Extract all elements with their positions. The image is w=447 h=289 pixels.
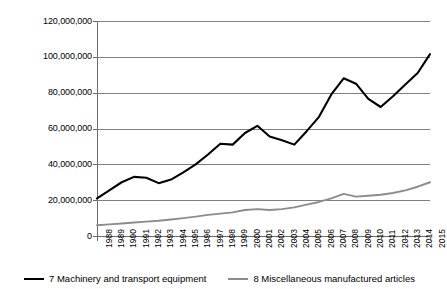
x-axis-tick-mark [183, 237, 184, 241]
x-axis-tick-mark [430, 237, 431, 241]
x-axis-tick-mark [356, 237, 357, 241]
x-axis-tick-mark [134, 237, 135, 241]
x-axis-tick-mark [171, 237, 172, 241]
y-axis-tick-label: 120,000,000 [4, 17, 92, 26]
x-axis-tick-mark [122, 237, 123, 241]
x-axis-tick-mark [344, 237, 345, 241]
y-axis-tick-label: 0 [4, 232, 92, 241]
x-axis-tick-mark [282, 237, 283, 241]
y-axis-tick-label: 80,000,000 [4, 88, 92, 97]
x-axis-tick-mark [233, 237, 234, 241]
x-axis-tick-mark [245, 237, 246, 241]
x-axis-tick-mark [208, 237, 209, 241]
x-axis-tick-mark [97, 237, 98, 241]
x-axis-tick-mark [257, 237, 258, 241]
x-axis-tick-label: 2015 [438, 239, 447, 248]
series-container [97, 21, 430, 236]
series-line-machinery-and-transport-equipment [97, 54, 430, 198]
x-axis-tick-mark [159, 237, 160, 241]
x-axis-tick-mark [393, 237, 394, 241]
legend-label-miscellaneous: 8 Miscellaneous manufactured articles [253, 273, 415, 284]
legend-label-machinery: 7 Machinery and transport equipment [49, 273, 206, 284]
x-axis-tick-mark [368, 237, 369, 241]
x-axis-tick-mark [220, 237, 221, 241]
x-axis-tick-mark [319, 237, 320, 241]
x-axis-tick-mark [331, 237, 332, 241]
x-axis-tick-mark [196, 237, 197, 241]
legend-swatch-icon-miscellaneous [228, 278, 248, 280]
x-axis-tick-mark [418, 237, 419, 241]
x-axis-tick-mark [146, 237, 147, 241]
x-axis-tick-mark [307, 237, 308, 241]
legend-item-machinery: 7 Machinery and transport equipment [24, 273, 206, 284]
x-axis-tick-mark [294, 237, 295, 241]
y-axis-tick-label: 40,000,000 [4, 160, 92, 169]
x-axis-tick-mark [405, 237, 406, 241]
chart-legend: 7 Machinery and transport equipment 8 Mi… [0, 268, 439, 289]
series-line-miscellaneous-manufactured-articles [97, 182, 430, 225]
plot-area [97, 21, 430, 236]
x-axis-tick-mark [109, 237, 110, 241]
legend-item-miscellaneous: 8 Miscellaneous manufactured articles [228, 273, 415, 284]
y-axis-tick-labels: 020,000,00040,000,00060,000,00080,000,00… [0, 0, 92, 289]
x-axis-tick-mark [381, 237, 382, 241]
x-axis-tick-mark [270, 237, 271, 241]
y-axis-tick-label: 100,000,000 [4, 52, 92, 61]
y-axis-tick-label: 20,000,000 [4, 196, 92, 205]
legend-swatch-icon-machinery [24, 278, 44, 280]
y-axis-tick-label: 60,000,000 [4, 124, 92, 133]
